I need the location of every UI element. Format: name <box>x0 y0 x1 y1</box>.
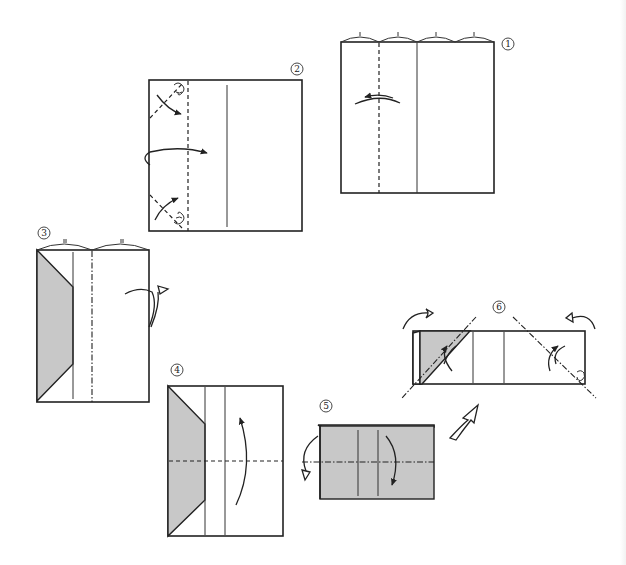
svg-text:4: 4 <box>174 365 180 375</box>
svg-text:2: 2 <box>294 64 300 74</box>
transition-arrow-icon <box>450 405 478 440</box>
step-6: 6 <box>402 301 596 398</box>
step-2: 2 <box>145 63 303 231</box>
step-4: 4 <box>168 364 283 536</box>
svg-text:3: 3 <box>41 228 47 238</box>
page-edge-shadow <box>620 0 626 565</box>
step-number-3: 3 <box>38 227 50 239</box>
step-3: 3 <box>37 227 168 402</box>
svg-text:1: 1 <box>505 39 511 49</box>
step-number-4: 4 <box>171 364 183 376</box>
step-5: 5 <box>302 400 434 499</box>
svg-text:5: 5 <box>323 401 329 411</box>
svg-text:6: 6 <box>496 302 502 312</box>
step-1: 1 <box>341 32 514 193</box>
step-number-2: 2 <box>291 63 303 75</box>
step-number-1: 1 <box>502 38 514 50</box>
step-number-6: 6 <box>493 301 505 313</box>
step-number-5: 5 <box>320 400 332 412</box>
origami-diagram: 1 2 3 <box>0 0 626 565</box>
